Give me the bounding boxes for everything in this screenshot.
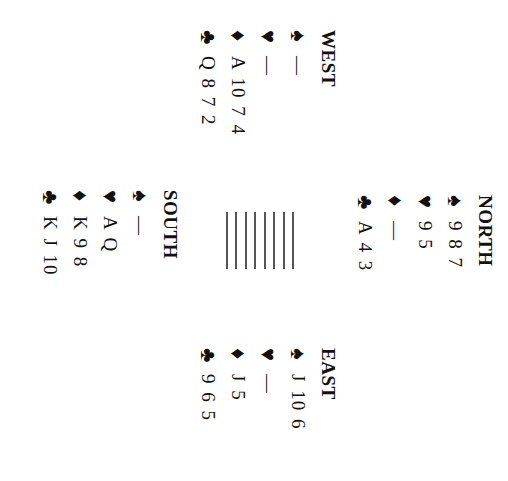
suit-row-clubs: ♣Q 8 7 2 — [193, 30, 223, 135]
divider-line — [245, 212, 247, 269]
trick-area-lines — [226, 212, 294, 269]
cards: J 5 — [227, 374, 249, 401]
suit-row-hearts: ♥— — [253, 30, 283, 135]
spade-icon: ♠ — [129, 190, 151, 216]
suit-row-spades: ♠— — [283, 30, 313, 135]
cards: A Q — [99, 216, 121, 252]
heart-icon: ♥ — [99, 190, 121, 216]
divider-line — [292, 212, 294, 269]
hand-title: EAST — [313, 348, 339, 429]
cards: — — [257, 56, 279, 76]
heart-icon: ♥ — [257, 30, 279, 56]
suit-row-clubs: ♣K J 10 — [35, 190, 65, 276]
bridge-deal-diagram: NORTH ♠9 8 7 ♥9 5 ♦— ♣A 4 3 WEST ♠— ♥— ♦… — [0, 0, 508, 481]
suit-row-diamonds: ♦K 9 8 — [65, 190, 95, 276]
cards: — — [287, 56, 309, 76]
divider-line — [283, 212, 285, 269]
cards: — — [384, 221, 406, 241]
club-icon: ♣ — [197, 30, 219, 56]
heart-icon: ♥ — [414, 195, 436, 221]
divider-line — [226, 212, 228, 269]
hand-south: SOUTH ♠— ♥A Q ♦K 9 8 ♣K J 10 — [35, 190, 181, 276]
hand-north: NORTH ♠9 8 7 ♥9 5 ♦— ♣A 4 3 — [350, 195, 496, 271]
diamond-icon: ♦ — [69, 190, 91, 216]
spade-icon: ♠ — [287, 348, 309, 374]
cards: — — [129, 216, 151, 236]
hand-west: WEST ♠— ♥— ♦A 10 7 4 ♣Q 8 7 2 — [193, 30, 339, 135]
hand-east: EAST ♠J 10 6 ♥— ♦J 5 ♣9 6 5 — [193, 348, 339, 429]
suit-row-clubs: ♣A 4 3 — [350, 195, 380, 271]
cards: 9 6 5 — [197, 374, 219, 421]
cards: — — [257, 374, 279, 394]
suit-row-diamonds: ♦A 10 7 4 — [223, 30, 253, 135]
suit-row-diamonds: ♦J 5 — [223, 348, 253, 429]
divider-line — [235, 212, 237, 269]
suit-row-spades: ♠9 8 7 — [440, 195, 470, 271]
suit-row-clubs: ♣9 6 5 — [193, 348, 223, 429]
cards: 9 8 7 — [444, 221, 466, 268]
cards: K J 10 — [39, 216, 61, 276]
cards: A 10 7 4 — [227, 56, 249, 135]
cards: A 4 3 — [354, 221, 376, 271]
hand-title: SOUTH — [155, 190, 181, 276]
diamond-icon: ♦ — [227, 30, 249, 56]
diamond-icon: ♦ — [227, 348, 249, 374]
divider-line — [273, 212, 275, 269]
suit-row-spades: ♠— — [125, 190, 155, 276]
club-icon: ♣ — [39, 190, 61, 216]
cards: Q 8 7 2 — [197, 56, 219, 125]
cards: K 9 8 — [69, 216, 91, 267]
club-icon: ♣ — [354, 195, 376, 221]
suit-row-diamonds: ♦— — [380, 195, 410, 271]
suit-row-hearts: ♥A Q — [95, 190, 125, 276]
divider-line — [254, 212, 256, 269]
spade-icon: ♠ — [444, 195, 466, 221]
suit-row-spades: ♠J 10 6 — [283, 348, 313, 429]
cards: 9 5 — [414, 221, 436, 250]
spade-icon: ♠ — [287, 30, 309, 56]
cards: J 10 6 — [287, 374, 309, 429]
diamond-icon: ♦ — [384, 195, 406, 221]
club-icon: ♣ — [197, 348, 219, 374]
divider-line — [264, 212, 266, 269]
hand-title: NORTH — [470, 195, 496, 271]
suit-row-hearts: ♥— — [253, 348, 283, 429]
suit-row-hearts: ♥9 5 — [410, 195, 440, 271]
heart-icon: ♥ — [257, 348, 279, 374]
hand-title: WEST — [313, 30, 339, 135]
